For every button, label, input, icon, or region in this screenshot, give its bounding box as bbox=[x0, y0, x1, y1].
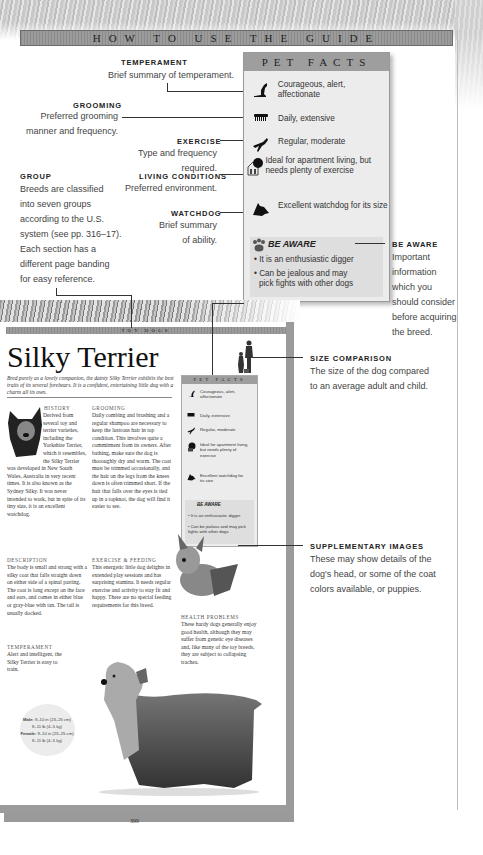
pet-facts-text: Ideal for apartment living, but needs pl… bbox=[265, 156, 389, 176]
mini-text: Excellent watchdog for its size bbox=[200, 473, 244, 484]
heading-description: Description bbox=[7, 557, 47, 563]
mini-row: Daily, extensive bbox=[182, 413, 230, 418]
group-band: TOY DOGS bbox=[6, 327, 286, 334]
label-exercise: EXERCISE bbox=[177, 137, 221, 146]
pet-facts-row-temperament: Courageous, alert, affectionate bbox=[244, 80, 389, 100]
connector bbox=[56, 288, 57, 295]
text-be-aware-4: should consider bbox=[392, 295, 455, 310]
text-grooming-2: manner and frequency. bbox=[20, 124, 118, 139]
breed-intro: Bred purely as a lovely companion, the d… bbox=[7, 375, 177, 396]
mini-row: Courageous, alert, affectionate bbox=[182, 389, 252, 400]
text-history: Derived from several toy and terrier var… bbox=[7, 412, 87, 518]
supplementary-dog-photo bbox=[170, 530, 240, 600]
connector bbox=[212, 303, 213, 375]
silky-terrier-photo bbox=[84, 660, 269, 800]
heading-history: History bbox=[44, 405, 70, 411]
text-group-3: according to the U.S. bbox=[20, 212, 104, 227]
pet-facts-row-grooming: Daily, extensive bbox=[244, 114, 389, 124]
pet-facts-text: Excellent watchdog for its size bbox=[278, 201, 388, 211]
label-living-conditions: LIVING CONDITIONS bbox=[139, 172, 227, 181]
fur-texture-right bbox=[455, 0, 483, 110]
pet-facts-row-exercise: Regular, moderate bbox=[244, 137, 389, 153]
pet-facts-row-living: Ideal for apartment living, but needs pl… bbox=[244, 156, 389, 176]
text-supplementary-1: These may show details of the bbox=[310, 552, 432, 567]
label-temperament: TEMPERAMENT bbox=[121, 58, 188, 67]
label-be-aware: BE AWARE bbox=[392, 240, 438, 249]
pet-facts-text: Daily, extensive bbox=[278, 114, 335, 124]
pet-facts-text: Courageous, alert, affectionate bbox=[278, 80, 389, 100]
temperament-dog-icon bbox=[252, 80, 270, 98]
mini-text: Daily, extensive bbox=[200, 413, 230, 418]
page-bottom-edge bbox=[0, 805, 292, 813]
connector bbox=[248, 357, 303, 358]
be-aware-bullet: • Can be jealous and may pick fights wit… bbox=[254, 269, 354, 289]
mini-be-aware-title: BE AWARE bbox=[197, 502, 221, 507]
pet-facts-row-watchdog: Excellent watchdog for its size bbox=[244, 201, 389, 217]
text-group-6: different page banding bbox=[20, 257, 109, 272]
text-temperament: Brief summary of temperament. bbox=[108, 68, 234, 83]
text-group-1: Breeds are classified bbox=[20, 182, 104, 197]
text-be-aware-5: before acquiring bbox=[392, 310, 457, 325]
paw-icon bbox=[252, 238, 266, 252]
text-grooming-1: Preferred grooming bbox=[20, 109, 118, 124]
text-group-5: Each section has a bbox=[20, 242, 96, 257]
connector bbox=[131, 295, 132, 328]
connector bbox=[167, 91, 252, 92]
mini-be-aware-bullet: • It is an enthusiastic digger bbox=[188, 513, 240, 518]
text-supplementary-2: dog's head, or some of the coat bbox=[310, 567, 436, 582]
heading-temperament: Temperament bbox=[7, 644, 53, 650]
house-tree-icon bbox=[187, 442, 196, 452]
be-aware-box: BE AWARE • It is an enthusiastic digger … bbox=[250, 237, 383, 297]
watchdog-head-icon bbox=[252, 201, 270, 217]
comb-icon bbox=[253, 114, 269, 122]
heading-grooming: Grooming bbox=[92, 405, 125, 411]
text-description: The body is small and strong with a silk… bbox=[7, 564, 87, 617]
connector bbox=[212, 303, 244, 304]
heading-health: Health Problems bbox=[181, 614, 239, 620]
watchdog-head-icon bbox=[187, 473, 196, 481]
text-size-comparison-1: The size of the dog compared bbox=[310, 364, 429, 379]
running-dog-icon bbox=[252, 137, 270, 153]
breed-stats: Male: 9–10 in (23–25 cm) 8–11 lb (4–5 kg… bbox=[16, 716, 78, 744]
text-living-conditions: Preferred environment. bbox=[100, 181, 217, 196]
text-be-aware-2: information bbox=[392, 265, 437, 280]
connector bbox=[122, 117, 252, 118]
mini-row: Ideal for apartment living, but needs pl… bbox=[182, 442, 252, 458]
mini-pet-facts-title: PET FACTS bbox=[182, 376, 257, 384]
mini-text: Regular, moderate bbox=[200, 427, 235, 432]
mini-pet-facts-panel: PET FACTS Courageous, alert, affectionat… bbox=[181, 375, 258, 547]
text-be-aware-1: Important bbox=[392, 250, 430, 265]
connector bbox=[56, 295, 132, 296]
text-group-4: system (see pp. 316–17). bbox=[20, 227, 122, 242]
running-dog-icon bbox=[187, 427, 196, 435]
label-size-comparison: SIZE COMPARISON bbox=[310, 354, 392, 363]
pet-facts-title: PET FACTS bbox=[244, 53, 389, 71]
text-temperament: Alert and intelligent, the Silky Terrier… bbox=[7, 651, 65, 674]
text-grooming: Daily combing and brushing and a regular… bbox=[92, 412, 172, 511]
text-size-comparison-2: to an average adult and child. bbox=[310, 379, 428, 394]
connector bbox=[355, 243, 385, 244]
page-title-band: HOW TO USE THE GUIDE bbox=[20, 30, 453, 46]
divider bbox=[7, 397, 172, 398]
text-exercise: This energetic little dog delights in ex… bbox=[92, 564, 172, 610]
label-watchdog: WATCHDOG bbox=[171, 209, 221, 218]
house-tree-icon bbox=[246, 156, 264, 176]
text-group-7: for easy reference. bbox=[20, 272, 95, 287]
pet-facts-panel: PET FACTS Courageous, alert, affectionat… bbox=[243, 52, 390, 302]
label-supplementary-images: SUPPLEMENTARY IMAGES bbox=[310, 542, 424, 551]
mini-text: Ideal for apartment living, but needs pl… bbox=[200, 442, 252, 458]
label-group: GROUP bbox=[20, 172, 52, 181]
text-be-aware-6: the breed. bbox=[392, 325, 433, 340]
page-number: 399 bbox=[130, 818, 139, 824]
mini-row: Regular, moderate bbox=[182, 427, 235, 435]
text-group-2: into seven groups bbox=[20, 197, 91, 212]
page-edge bbox=[286, 322, 292, 812]
text-be-aware-3: which you bbox=[392, 280, 432, 295]
be-aware-title: BE AWARE bbox=[268, 239, 316, 249]
breed-title: Silky Terrier bbox=[7, 340, 158, 374]
text-supplementary-3: colors available, or puppies. bbox=[310, 582, 422, 597]
heading-exercise: Exercise & Feeding bbox=[92, 557, 156, 563]
page-divider bbox=[457, 30, 458, 810]
pet-facts-text: Regular, moderate bbox=[278, 137, 345, 147]
connector bbox=[238, 545, 303, 546]
